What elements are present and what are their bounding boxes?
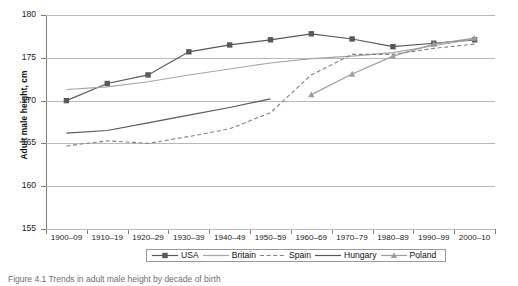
marker-usa-5 [268, 37, 273, 42]
y-tick-label-170: 170 [2, 95, 36, 105]
legend-label-spain: Spain [289, 250, 311, 260]
legend-item-poland[interactable]: Poland [381, 250, 441, 260]
legend-label-hungary: Hungary [344, 250, 376, 260]
marker-usa-8 [390, 44, 395, 49]
marker-usa-0 [64, 98, 69, 103]
legend-label-poland: Poland [410, 250, 437, 260]
y-tick-label-160: 160 [2, 180, 36, 190]
legend-swatch-usa-icon [152, 251, 178, 260]
series-line-hungary [66, 99, 270, 133]
series-line-usa [66, 34, 474, 101]
legend-swatch-hungary-icon [315, 251, 341, 260]
x-tick-label-4: 1940–49 [207, 233, 253, 242]
marker-usa-2 [145, 72, 150, 77]
legend-item-britain[interactable]: Britain [203, 250, 260, 260]
marker-poland-0 [308, 91, 314, 97]
series-spain [66, 44, 474, 146]
x-tick-label-1: 1910–19 [84, 233, 130, 242]
x-tick-label-3: 1930–39 [166, 233, 212, 242]
legend-label-usa: USA [181, 250, 199, 260]
legend-label-britain: Britain [232, 250, 256, 260]
y-tick-label-175: 175 [2, 52, 36, 62]
legend-swatch-britain-icon [203, 251, 229, 260]
figure-caption: Figure 4.1 Trends in adult male height b… [8, 274, 508, 284]
series-plot [46, 15, 495, 229]
legend-item-hungary[interactable]: Hungary [315, 250, 380, 260]
series-line-britain [66, 39, 474, 90]
legend-swatch-spain-icon [260, 251, 286, 260]
y-tick-label-165: 165 [2, 137, 36, 147]
x-tick-label-9: 1990–99 [411, 233, 457, 242]
y-tick-label-180: 180 [2, 9, 36, 19]
marker-usa-7 [349, 36, 354, 41]
marker-usa-3 [186, 49, 191, 54]
legend-item-spain[interactable]: Spain [260, 250, 315, 260]
x-tick-label-0: 1900–09 [43, 233, 89, 242]
marker-usa-6 [309, 31, 314, 36]
x-tick-label-5: 1950–59 [248, 233, 294, 242]
x-tick-label-8: 1980–89 [370, 233, 416, 242]
series-hungary [66, 99, 270, 133]
chart-legend: USABritainSpainHungaryPoland [146, 249, 446, 262]
gridline-155 [46, 229, 495, 230]
x-tick-label-7: 1970–79 [329, 233, 375, 242]
series-britain [66, 39, 474, 90]
x-tick-label-6: 1960–69 [288, 233, 334, 242]
plot-area [46, 15, 495, 229]
x-tick-mark-end [495, 229, 496, 234]
series-line-spain [66, 44, 474, 146]
marker-usa-4 [227, 42, 232, 47]
y-tick-label-155: 155 [2, 223, 36, 233]
legend-item-usa[interactable]: USA [152, 250, 203, 260]
marker-poland-1 [349, 71, 355, 77]
x-tick-label-2: 1920–29 [125, 233, 171, 242]
x-tick-label-10: 2000–10 [452, 233, 498, 242]
legend-swatch-poland-icon [381, 251, 407, 260]
chart-figure: Adult male height, cm 180175170165160155… [0, 0, 518, 286]
series-usa [64, 31, 478, 103]
marker-usa-1 [105, 81, 110, 86]
